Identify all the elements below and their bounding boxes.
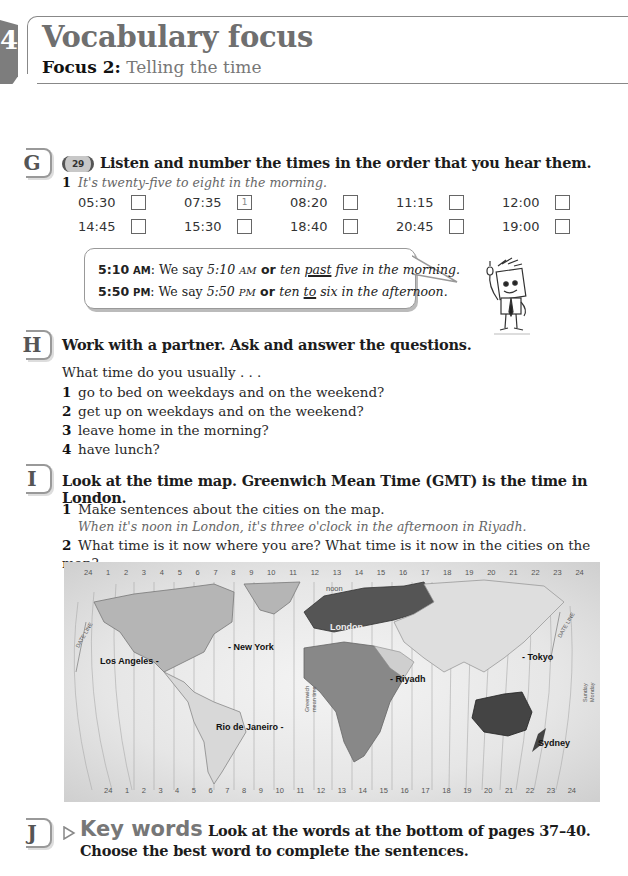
section-h-instruction: Work with a partner. Ask and answer the … [62,336,472,353]
list-item: 1Make sentences about the cities on the … [62,500,610,518]
city-london: London [330,622,363,632]
answer-box[interactable] [555,195,570,210]
focus-title: Telling the time [126,57,261,77]
time-item: 07:351 [184,195,290,210]
time-item: 18:40 [290,219,396,234]
section-letter-j: J [26,818,52,848]
city-rio-de-janeiro: Rio de Janeiro - [216,722,284,732]
world-time-zone-map: 2412345678910111213141516171819202122232… [64,562,600,802]
section-h-lead: What time do you usually . . . [62,364,261,380]
city-new-york: - New York [228,642,274,652]
times-row-2: 14:45 15:30 18:40 20:45 19:00 [78,214,608,238]
list-item: 3leave home in the morning? [62,421,384,440]
answer-box[interactable] [343,195,358,210]
section-g-instruction: 29Listen and number the times in the ord… [62,154,591,172]
answer-box[interactable] [131,219,146,234]
city-los-angeles: Los Angeles - [100,656,159,666]
city-tokyo: - Tokyo [522,652,553,662]
answer-box[interactable] [237,219,252,234]
section-letter-i: I [26,464,52,494]
tip-line-am: 5:10 AM: We say 5:10 AM or ten past five… [98,262,460,277]
bottom-hour-labels: 2412345678910111213141516171819202122232… [104,786,576,795]
play-arrow-icon [62,826,76,840]
top-hour-labels: 2412345678910111213141516171819202122232… [84,568,584,577]
cartoon-character-illustration [478,256,548,338]
answer-box[interactable] [449,195,464,210]
day-labels: SundayMonday [582,682,596,702]
answer-box[interactable] [555,219,570,234]
page-title: Vocabulary focus [42,20,313,54]
tip-speech-bubble [84,248,416,309]
answer-box[interactable] [343,219,358,234]
list-item: 2get up on weekdays and on the weekend? [62,402,384,421]
noon-label: noon [326,584,343,593]
unit-number-tab: 4 [0,20,18,84]
time-item: 05:30 [78,195,184,210]
page-subtitle: Focus 2: Telling the time [42,57,262,77]
section-letter-g: G [26,148,52,178]
list-item: 1go to bed on weekdays and on the weeken… [62,383,384,402]
focus-label: Focus 2: [42,57,121,77]
time-item: 11:15 [396,195,502,210]
map-graphic [64,562,600,802]
section-letter-h: H [26,330,52,360]
section-j-instruction: Key words Look at the words at the botto… [80,819,600,861]
list-item: 4have lunch? [62,440,384,459]
time-item: 08:20 [290,195,396,210]
section-h-questions: 1go to bed on weekdays and on the weeken… [62,383,384,459]
time-item: 12:00 [502,195,608,210]
city-riyadh: - Riyadh [390,674,426,684]
time-item: 19:00 [502,219,608,234]
key-words-label: Key words [80,817,203,841]
answer-box[interactable]: 1 [237,195,252,210]
time-item: 15:30 [184,219,290,234]
answer-box[interactable] [449,219,464,234]
audio-track-icon[interactable]: 29 [62,156,94,172]
time-item: 14:45 [78,219,184,234]
times-grid: 05:30 07:351 08:20 11:15 12:00 14:45 15:… [78,190,608,238]
tip-line-pm: 5:50 PM: We say 5:50 PM or ten to six in… [98,284,448,299]
times-row-1: 05:30 07:351 08:20 11:15 12:00 [78,190,608,214]
section-g-example: 1It's twenty-five to eight in the mornin… [62,172,327,191]
time-item: 20:45 [396,219,502,234]
city-sydney: Sydney [538,738,570,748]
example-sentence: When it's noon in London, it's three o'c… [62,518,610,536]
greenwich-label: Greenwichmean time [304,686,318,712]
answer-box[interactable] [131,195,146,210]
